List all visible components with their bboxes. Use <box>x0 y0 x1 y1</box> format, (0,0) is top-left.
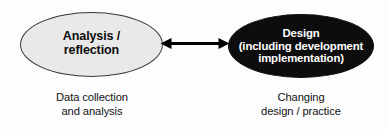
node-design-label-line1: Design <box>239 27 364 39</box>
node-analysis-label: Analysis / reflection <box>63 30 120 58</box>
node-design-label-line3: implementation) <box>239 52 364 64</box>
node-design[interactable]: Design (including development implementa… <box>228 14 374 78</box>
diagram-canvas: Analysis / reflection Design (including … <box>0 0 388 129</box>
node-design-label-line2: (including development <box>239 40 364 52</box>
node-analysis-label-line2: reflection <box>63 44 120 58</box>
node-analysis-label-line1: Analysis / <box>63 30 120 44</box>
node-design-label: Design (including development implementa… <box>239 27 364 64</box>
caption-analysis: Data collection and analysis <box>16 90 168 118</box>
caption-design-line1: Changing <box>224 90 378 104</box>
caption-design: Changing design / practice <box>224 90 378 118</box>
caption-design-line2: design / practice <box>224 104 378 118</box>
caption-analysis-line1: Data collection <box>16 90 168 104</box>
double-headed-arrow-icon <box>160 36 230 51</box>
node-analysis-reflection[interactable]: Analysis / reflection <box>20 12 163 77</box>
caption-analysis-line2: and analysis <box>16 104 168 118</box>
